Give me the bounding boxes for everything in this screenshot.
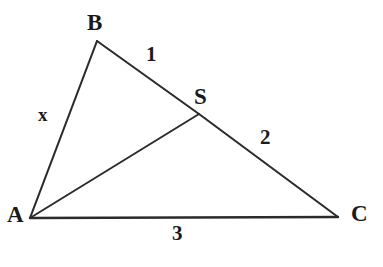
side-label-ab: x bbox=[38, 105, 48, 124]
segment-as bbox=[30, 114, 199, 218]
side-label-ac: 3 bbox=[172, 223, 183, 244]
vertex-label-a: A bbox=[7, 203, 24, 226]
triangle-diagram-svg bbox=[0, 0, 383, 267]
side-label-bs: 1 bbox=[146, 44, 157, 65]
segment-ac bbox=[30, 217, 338, 218]
side-label-sc: 2 bbox=[260, 127, 271, 148]
point-label-s: S bbox=[194, 85, 207, 108]
vertex-label-c: C bbox=[351, 202, 368, 225]
vertex-label-b: B bbox=[87, 11, 103, 34]
segment-ab bbox=[30, 41, 97, 218]
geometry-figure: A B C S x 1 2 3 bbox=[0, 0, 383, 267]
